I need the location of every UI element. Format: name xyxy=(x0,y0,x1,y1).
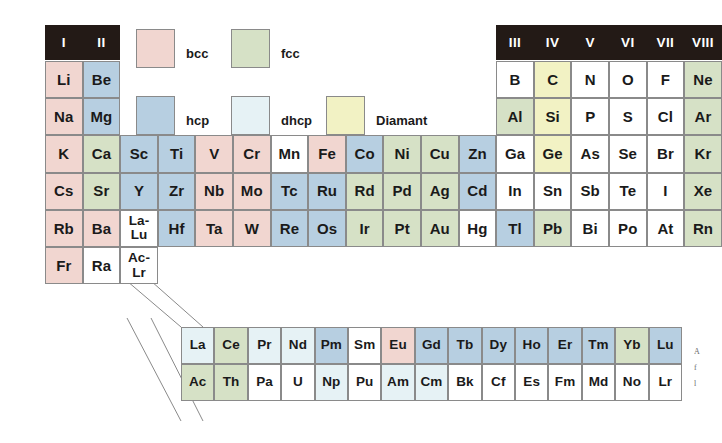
element-cell-tb[interactable]: Tb xyxy=(448,327,481,364)
element-cell-cl[interactable]: Cl xyxy=(647,98,685,135)
element-cell-os[interactable]: Os xyxy=(308,210,346,247)
element-cell-cm[interactable]: Cm xyxy=(415,364,448,401)
element-cell-c[interactable]: C xyxy=(534,61,572,98)
element-cell-as[interactable]: As xyxy=(571,135,609,172)
element-cell-i[interactable]: I xyxy=(647,173,685,210)
element-cell-be[interactable]: Be xyxy=(83,61,121,98)
element-cell-cr[interactable]: Cr xyxy=(233,135,271,172)
element-cell-pu[interactable]: Pu xyxy=(348,364,381,401)
element-cell-sn[interactable]: Sn xyxy=(534,173,572,210)
element-cell-ba[interactable]: Ba xyxy=(83,210,121,247)
element-cell-xe[interactable]: Xe xyxy=(684,173,722,210)
element-cell-am[interactable]: Am xyxy=(381,364,414,401)
element-cell-pd[interactable]: Pd xyxy=(383,173,421,210)
element-cell-se[interactable]: Se xyxy=(609,135,647,172)
element-cell-rn[interactable]: Rn xyxy=(684,210,722,247)
element-cell-ge[interactable]: Ge xyxy=(534,135,572,172)
element-cell-fe[interactable]: Fe xyxy=(308,135,346,172)
element-cell-fm[interactable]: Fm xyxy=(548,364,581,401)
element-cell-ac-lr[interactable]: Ac-Lr xyxy=(120,247,158,284)
element-cell-fr[interactable]: Fr xyxy=(45,247,83,284)
element-cell-cd[interactable]: Cd xyxy=(459,173,497,210)
element-cell-ti[interactable]: Ti xyxy=(158,135,196,172)
element-cell-nb[interactable]: Nb xyxy=(195,173,233,210)
element-cell-co[interactable]: Co xyxy=(346,135,384,172)
element-cell-p[interactable]: P xyxy=(571,98,609,135)
element-cell-na[interactable]: Na xyxy=(45,98,83,135)
element-cell-v[interactable]: V xyxy=(195,135,233,172)
element-cell-bk[interactable]: Bk xyxy=(448,364,481,401)
element-cell-k[interactable]: K xyxy=(45,135,83,172)
element-cell-er[interactable]: Er xyxy=(548,327,581,364)
element-cell-ru[interactable]: Ru xyxy=(308,173,346,210)
element-cell-mn[interactable]: Mn xyxy=(271,135,309,172)
element-cell-cf[interactable]: Cf xyxy=(482,364,515,401)
element-cell-ir[interactable]: Ir xyxy=(346,210,384,247)
element-cell-ce[interactable]: Ce xyxy=(214,327,247,364)
element-cell-o[interactable]: O xyxy=(609,61,647,98)
element-cell-re[interactable]: Re xyxy=(271,210,309,247)
element-cell-md[interactable]: Md xyxy=(582,364,615,401)
element-cell-ag[interactable]: Ag xyxy=(421,173,459,210)
element-cell-ca[interactable]: Ca xyxy=(83,135,121,172)
element-cell-li[interactable]: Li xyxy=(45,61,83,98)
element-cell-hf[interactable]: Hf xyxy=(158,210,196,247)
element-cell-ho[interactable]: Ho xyxy=(515,327,548,364)
element-cell-sb[interactable]: Sb xyxy=(571,173,609,210)
element-cell-cs[interactable]: Cs xyxy=(45,173,83,210)
element-cell-ra[interactable]: Ra xyxy=(83,247,121,284)
element-cell-mg[interactable]: Mg xyxy=(83,98,121,135)
element-cell-ga[interactable]: Ga xyxy=(496,135,534,172)
element-cell-dy[interactable]: Dy xyxy=(482,327,515,364)
element-cell-rd[interactable]: Rd xyxy=(346,173,384,210)
element-cell-zr[interactable]: Zr xyxy=(158,173,196,210)
element-cell-rb[interactable]: Rb xyxy=(45,210,83,247)
element-cell-tm[interactable]: Tm xyxy=(582,327,615,364)
element-cell-eu[interactable]: Eu xyxy=(381,327,414,364)
element-cell-pt[interactable]: Pt xyxy=(383,210,421,247)
element-cell-au[interactable]: Au xyxy=(421,210,459,247)
element-cell-n[interactable]: N xyxy=(571,61,609,98)
element-cell-pr[interactable]: Pr xyxy=(248,327,281,364)
element-cell-si[interactable]: Si xyxy=(534,98,572,135)
element-cell-at[interactable]: At xyxy=(647,210,685,247)
element-cell-tl[interactable]: Tl xyxy=(496,210,534,247)
element-cell-cu[interactable]: Cu xyxy=(421,135,459,172)
element-cell-nd[interactable]: Nd xyxy=(281,327,314,364)
element-cell-pb[interactable]: Pb xyxy=(534,210,572,247)
element-cell-y[interactable]: Y xyxy=(120,173,158,210)
element-cell-pa[interactable]: Pa xyxy=(248,364,281,401)
element-cell-sc[interactable]: Sc xyxy=(120,135,158,172)
element-cell-lr[interactable]: Lr xyxy=(649,364,682,401)
element-cell-th[interactable]: Th xyxy=(214,364,247,401)
element-cell-w[interactable]: W xyxy=(233,210,271,247)
element-cell-ar[interactable]: Ar xyxy=(684,98,722,135)
element-cell-mo[interactable]: Mo xyxy=(233,173,271,210)
element-cell-b[interactable]: B xyxy=(496,61,534,98)
element-cell-ni[interactable]: Ni xyxy=(383,135,421,172)
element-cell-yb[interactable]: Yb xyxy=(615,327,648,364)
element-cell-la-lu[interactable]: La-Lu xyxy=(120,210,158,247)
element-cell-ta[interactable]: Ta xyxy=(195,210,233,247)
element-cell-hg[interactable]: Hg xyxy=(459,210,497,247)
element-cell-kr[interactable]: Kr xyxy=(684,135,722,172)
element-cell-sr[interactable]: Sr xyxy=(83,173,121,210)
element-cell-u[interactable]: U xyxy=(281,364,314,401)
element-cell-po[interactable]: Po xyxy=(609,210,647,247)
element-cell-es[interactable]: Es xyxy=(515,364,548,401)
element-cell-al[interactable]: Al xyxy=(496,98,534,135)
element-cell-in[interactable]: In xyxy=(496,173,534,210)
element-cell-la[interactable]: La xyxy=(181,327,214,364)
element-cell-ne[interactable]: Ne xyxy=(684,61,722,98)
element-cell-f[interactable]: F xyxy=(647,61,685,98)
element-cell-tc[interactable]: Tc xyxy=(271,173,309,210)
element-cell-br[interactable]: Br xyxy=(647,135,685,172)
element-cell-lu[interactable]: Lu xyxy=(649,327,682,364)
element-cell-te[interactable]: Te xyxy=(609,173,647,210)
element-cell-bi[interactable]: Bi xyxy=(571,210,609,247)
element-cell-gd[interactable]: Gd xyxy=(415,327,448,364)
element-cell-no[interactable]: No xyxy=(615,364,648,401)
element-cell-pm[interactable]: Pm xyxy=(315,327,348,364)
element-cell-ac[interactable]: Ac xyxy=(181,364,214,401)
element-cell-sm[interactable]: Sm xyxy=(348,327,381,364)
